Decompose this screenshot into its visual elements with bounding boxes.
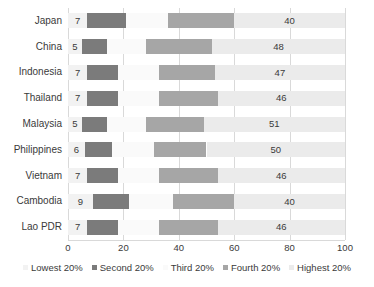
bar-segment-highest-20: 51 [204, 117, 345, 132]
segment-value-label: 51 [269, 119, 280, 129]
bar-segment-lowest-20: 6 [68, 142, 85, 157]
bar-segment-fourth-20 [168, 13, 234, 28]
legend-item-third-20[interactable]: Third 20% [163, 263, 214, 273]
segment-value-label: 7 [75, 16, 80, 26]
bar-row: Malaysia551 [68, 117, 345, 132]
legend-label: Third 20% [171, 263, 214, 273]
category-label-malaysia: Malaysia [23, 119, 62, 129]
segment-value-label: 40 [284, 197, 295, 207]
bar-segment-fourth-20 [146, 117, 204, 132]
category-label-lao-pdr: Lao PDR [21, 222, 62, 232]
bar-segment-fourth-20 [159, 168, 217, 183]
segment-value-label: 46 [276, 171, 287, 181]
segment-value-label: 7 [75, 93, 80, 103]
bar-segment-third-20 [118, 65, 160, 80]
bar-segment-third-20 [107, 39, 146, 54]
bar-segment-second-20 [87, 220, 117, 235]
bar-segment-third-20 [112, 142, 154, 157]
x-tick-label-40: 40 [174, 243, 185, 253]
bar-segment-second-20 [85, 142, 113, 157]
bar-segment-highest-20: 50 [207, 142, 346, 157]
bar-segment-second-20 [87, 91, 117, 106]
bar-segment-third-20 [118, 220, 160, 235]
bar-segment-lowest-20: 7 [68, 91, 87, 106]
segment-value-label: 7 [75, 222, 80, 232]
bar-segment-highest-20: 46 [218, 168, 345, 183]
category-label-thailand: Thailand [24, 93, 62, 103]
category-label-cambodia: Cambodia [16, 196, 62, 206]
legend-label: Second 20% [100, 263, 154, 273]
legend-swatch-icon [223, 265, 228, 270]
bar-segment-fourth-20 [173, 194, 234, 209]
bar-segment-highest-20: 48 [212, 39, 345, 54]
segment-value-label: 47 [275, 68, 286, 78]
bar-segment-lowest-20: 7 [68, 13, 87, 28]
bar-row: Vietnam746 [68, 168, 345, 183]
category-label-china: China [36, 42, 62, 52]
bar-segment-lowest-20: 7 [68, 220, 87, 235]
bar-segment-lowest-20: 7 [68, 65, 87, 80]
segment-value-label: 5 [72, 42, 77, 52]
x-tick-label-20: 20 [118, 243, 129, 253]
bar-segment-lowest-20: 5 [68, 39, 82, 54]
legend-swatch-icon [92, 265, 97, 270]
bar-row: Philippines650 [68, 142, 345, 157]
bar-segment-highest-20: 46 [218, 91, 345, 106]
x-axis-line [68, 240, 345, 241]
bar-segment-fourth-20 [159, 65, 214, 80]
bar-row: Indonesia747 [68, 65, 345, 80]
category-label-vietnam: Vietnam [25, 171, 62, 181]
bar-segment-third-20 [129, 194, 173, 209]
bar-segment-highest-20: 47 [215, 65, 345, 80]
bar-segment-third-20 [118, 91, 160, 106]
x-tick-label-0: 0 [65, 243, 70, 253]
bar-row: Thailand746 [68, 91, 345, 106]
segment-value-label: 50 [270, 145, 281, 155]
legend-swatch-icon [289, 265, 294, 270]
bar-row: Cambodia940 [68, 194, 345, 209]
legend-label: Highest 20% [297, 263, 351, 273]
segment-value-label: 5 [72, 119, 77, 129]
legend-label: Lowest 20% [31, 263, 83, 273]
bar-segment-lowest-20: 9 [68, 194, 93, 209]
bar-segment-fourth-20 [154, 142, 207, 157]
segment-value-label: 48 [273, 42, 284, 52]
legend-item-second-20[interactable]: Second 20% [92, 263, 154, 273]
bar-segment-fourth-20 [159, 220, 217, 235]
bar-segment-third-20 [118, 168, 160, 183]
legend-label: Fourth 20% [231, 263, 280, 273]
bar-segment-third-20 [107, 117, 146, 132]
income-quintile-stacked-bar-chart: Japan740China548Indonesia747Thailand746M… [0, 0, 374, 287]
bar-row: Japan740 [68, 13, 345, 28]
category-label-japan: Japan [35, 16, 62, 26]
segment-value-label: 7 [75, 68, 80, 78]
bar-row: Lao PDR746 [68, 220, 345, 235]
x-axis: 020406080100 [68, 240, 345, 256]
bar-segment-second-20 [87, 13, 126, 28]
bar-segment-highest-20: 46 [218, 220, 345, 235]
legend-item-lowest-20[interactable]: Lowest 20% [23, 263, 83, 273]
bar-segment-second-20 [82, 39, 107, 54]
bar-segment-second-20 [82, 117, 107, 132]
segment-value-label: 40 [284, 16, 295, 26]
category-label-philippines: Philippines [14, 145, 62, 155]
legend-item-fourth-20[interactable]: Fourth 20% [223, 263, 280, 273]
plot-area: Japan740China548Indonesia747Thailand746M… [68, 8, 345, 240]
bar-segment-fourth-20 [146, 39, 212, 54]
bar-segment-highest-20: 40 [234, 13, 345, 28]
legend-item-highest-20[interactable]: Highest 20% [289, 263, 351, 273]
segment-value-label: 7 [75, 171, 80, 181]
bar-segment-second-20 [93, 194, 129, 209]
bar-segment-lowest-20: 7 [68, 168, 87, 183]
segment-value-label: 46 [276, 222, 287, 232]
bar-segment-third-20 [126, 13, 168, 28]
x-tick-label-60: 60 [229, 243, 240, 253]
x-tick-label-100: 100 [337, 243, 353, 253]
category-label-indonesia: Indonesia [19, 67, 62, 77]
legend-swatch-icon [163, 265, 168, 270]
segment-value-label: 9 [78, 197, 83, 207]
bar-row: China548 [68, 39, 345, 54]
bar-segment-fourth-20 [159, 91, 217, 106]
bar-segment-second-20 [87, 168, 117, 183]
bar-segment-lowest-20: 5 [68, 117, 82, 132]
